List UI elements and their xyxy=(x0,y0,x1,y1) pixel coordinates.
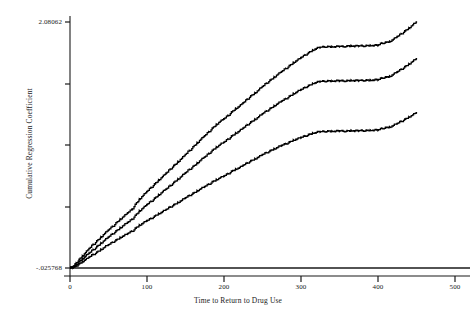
x-axis-tick-label-0: 0 xyxy=(68,283,72,291)
x-axis-title: Time to Return to Drug Use xyxy=(0,296,476,305)
series-line-upper-band xyxy=(70,22,417,268)
chart-figure: 2.08062 -.025768 0100200300400500 Time t… xyxy=(0,0,476,320)
x-axis-tick-label-300: 300 xyxy=(296,283,307,291)
plot-canvas xyxy=(0,0,476,320)
x-axis-tick-label-500: 500 xyxy=(450,283,461,291)
y-axis-title: Cumulative Regression Coefficient xyxy=(25,69,34,219)
axis-group xyxy=(64,16,470,282)
x-axis-tick-label-200: 200 xyxy=(219,283,230,291)
series-line-lower-band xyxy=(70,113,417,269)
series-group xyxy=(70,22,417,268)
y-axis-tick-label-bottom: -.025768 xyxy=(14,264,62,272)
x-axis-tick-label-100: 100 xyxy=(142,283,153,291)
x-axis-tick-label-400: 400 xyxy=(373,283,384,291)
y-axis-tick-label-top: 2.08062 xyxy=(14,18,62,26)
